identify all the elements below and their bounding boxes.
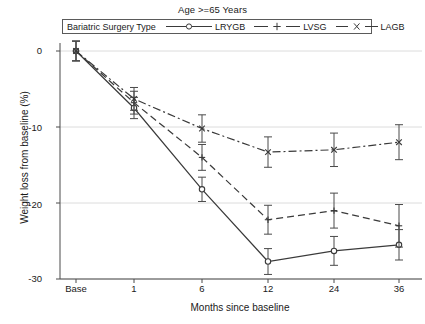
series-lrygb	[72, 41, 403, 274]
gridlines	[60, 51, 422, 279]
circle-marker	[199, 187, 204, 192]
circle-marker	[331, 248, 336, 253]
series-layer	[72, 41, 403, 274]
plus-marker	[265, 217, 271, 223]
series-line	[76, 51, 399, 262]
series-line	[76, 51, 399, 152]
axis-lines	[56, 43, 422, 283]
circle-marker	[265, 259, 270, 264]
plot-area	[0, 0, 425, 324]
series-lagb	[72, 41, 403, 167]
plus-marker	[396, 223, 402, 229]
chart-container: Age >=65 Years Bariatric Surgery Type LR…	[0, 0, 425, 324]
series-line	[76, 51, 399, 226]
plus-marker	[331, 207, 337, 213]
series-lvsg	[72, 41, 403, 247]
